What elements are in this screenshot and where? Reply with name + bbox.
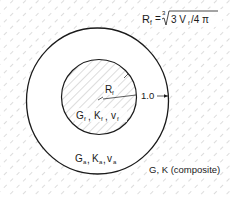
formula-radicand-b: /4 π [191,14,209,25]
svg-text:v: v [111,110,116,121]
formula-lhs-sub: f [150,19,152,26]
matrix-properties: G a , K a , v a [75,153,117,165]
formula-lhs: R [142,13,150,25]
svg-text:,: , [105,111,108,122]
outer-radius-label: 1.0 [141,90,154,101]
svg-text:G: G [75,153,83,164]
fiber-sphere-circle [62,60,137,135]
svg-text:K: K [94,110,101,121]
composite-label: G, K (composite) [149,164,220,175]
svg-text:K: K [92,153,99,164]
fiber-properties: G f , K f , v f [76,110,119,122]
composite-sphere-diagram: R f = 3 3 V f /4 π R f G f , K f , v f 1… [0,0,231,197]
formula-eq: = [155,13,161,24]
svg-text:v: v [107,153,112,164]
radius-formula: R f = 3 3 V f /4 π [140,9,222,27]
formula-radicand-a: 3 V [171,14,186,25]
svg-text:,: , [87,154,90,165]
svg-text:,: , [88,111,91,122]
svg-text:G: G [76,110,84,121]
svg-text:,: , [103,154,106,165]
